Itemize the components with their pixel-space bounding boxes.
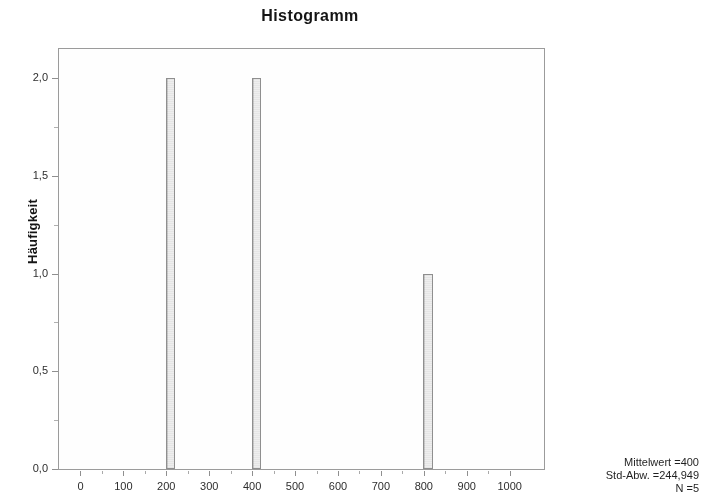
histogram-bar [166, 78, 175, 469]
plot-area [58, 48, 545, 470]
x-axis-tick-label: 100 [101, 480, 145, 492]
y-axis-minor-tick [54, 322, 58, 323]
y-axis-title: Häufigkeit [25, 180, 40, 284]
histogram-chart: Histogramm 0,00,51,01,52,0 0100200300400… [0, 0, 703, 502]
statistics-annotation: Mittelwert =400 Std-Abw. =244,949 N =5 [606, 456, 699, 495]
x-axis-tick [295, 471, 296, 476]
y-axis-tick-label: 0,0 [12, 462, 48, 474]
x-axis-tick [252, 471, 253, 476]
x-axis-tick-label: 600 [316, 480, 360, 492]
y-axis-tick-label: 0,5 [12, 364, 48, 376]
x-axis-tick-label: 800 [402, 480, 446, 492]
x-axis-tick-label: 0 [58, 480, 102, 492]
x-axis-tick [467, 471, 468, 476]
x-axis-minor-tick [231, 471, 232, 474]
x-axis-tick-label: 400 [230, 480, 274, 492]
y-axis-tick [52, 78, 58, 79]
histogram-bar [423, 274, 432, 469]
x-axis-tick-label: 200 [144, 480, 188, 492]
bars-layer [59, 49, 544, 469]
chart-title: Histogramm [0, 7, 620, 25]
x-axis-minor-tick [445, 471, 446, 474]
stat-mean: Mittelwert =400 [606, 456, 699, 469]
x-axis-tick-label: 300 [187, 480, 231, 492]
x-axis-tick-label: 700 [359, 480, 403, 492]
x-axis-minor-tick [317, 471, 318, 474]
x-axis-minor-tick [145, 471, 146, 474]
x-axis-minor-tick [359, 471, 360, 474]
x-axis-tick [166, 471, 167, 476]
y-axis-tick-label: 2,0 [12, 71, 48, 83]
y-axis-minor-tick [54, 225, 58, 226]
x-axis-tick [338, 471, 339, 476]
y-axis-minor-tick [54, 420, 58, 421]
x-axis-tick-label: 1000 [488, 480, 532, 492]
x-axis-minor-tick [274, 471, 275, 474]
y-axis-tick [52, 176, 58, 177]
x-axis-minor-tick [188, 471, 189, 474]
y-axis-tick [52, 274, 58, 275]
histogram-bar [252, 78, 261, 469]
x-axis-minor-tick [488, 471, 489, 474]
x-axis-tick [510, 471, 511, 476]
x-axis-tick [424, 471, 425, 476]
stat-n: N =5 [606, 482, 699, 495]
x-axis-minor-tick [402, 471, 403, 474]
x-axis-tick-label: 500 [273, 480, 317, 492]
y-axis-tick [52, 371, 58, 372]
x-axis-tick [123, 471, 124, 476]
stat-stddev: Std-Abw. =244,949 [606, 469, 699, 482]
x-axis-tick [80, 471, 81, 476]
x-axis-minor-tick [102, 471, 103, 474]
x-axis-tick [209, 471, 210, 476]
x-axis-tick [381, 471, 382, 476]
y-axis-minor-tick [54, 127, 58, 128]
x-axis-tick-label: 900 [445, 480, 489, 492]
y-axis-tick [52, 469, 58, 470]
